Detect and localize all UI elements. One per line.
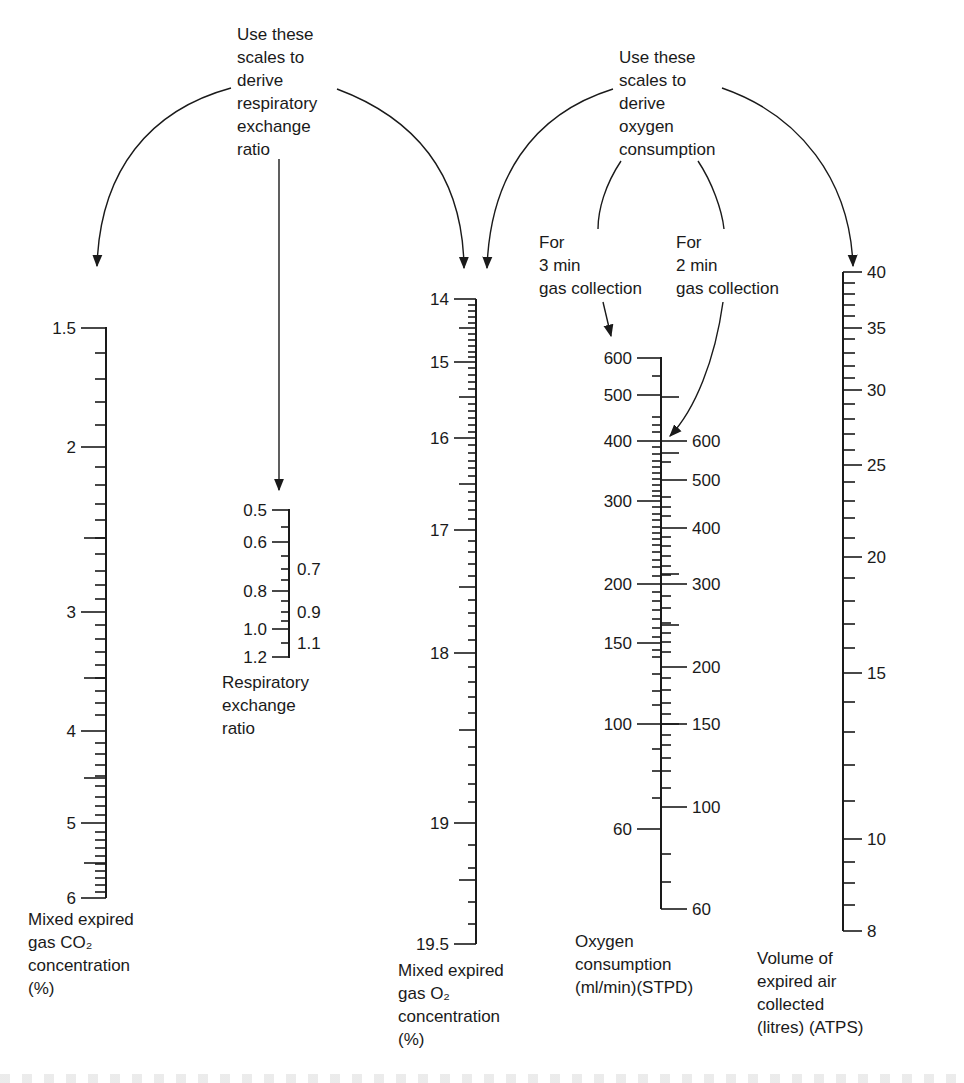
- title-line: collected: [757, 995, 824, 1014]
- tick-label: 40: [867, 263, 886, 282]
- rer-note-line: Use these: [237, 25, 314, 44]
- title-line: Respiratory: [222, 673, 309, 692]
- vo2-scale: 6005004003002001501006060050040030020015…: [604, 349, 721, 919]
- tick-label: 15: [430, 353, 449, 372]
- rer-scale-title: Respiratory exchange ratio: [222, 673, 309, 738]
- title-line: gas O₂: [398, 984, 450, 1003]
- tick-label: 8: [867, 922, 876, 941]
- tick-label: 10: [867, 830, 886, 849]
- arrow-to-co2-scale: [97, 88, 231, 266]
- tick-label: 500: [604, 386, 632, 405]
- arrow-2min-to-vo2: [670, 302, 723, 436]
- o2-scale: 14151617181919.5: [416, 290, 476, 954]
- tick-label: 2: [67, 438, 76, 457]
- tick-label: 400: [692, 519, 720, 538]
- three-min-line: 3 min: [539, 256, 581, 275]
- arrow-to-volume-scale: [722, 88, 853, 266]
- tick-label: 16: [430, 429, 449, 448]
- tick-label: 0.6: [243, 533, 267, 552]
- tick-label: 18: [430, 644, 449, 663]
- title-line: Oxygen: [575, 932, 634, 951]
- tick-label: 15: [867, 664, 886, 683]
- o2-note-line: consumption: [619, 140, 715, 159]
- volume-scale-title: Volume of expired air collected (litres)…: [757, 949, 863, 1037]
- rer-note-line: derive: [237, 71, 283, 90]
- tick-label: 1.1: [297, 634, 321, 653]
- volume-scale: 403530252015108: [843, 263, 886, 941]
- rer-note-line: exchange: [237, 117, 311, 136]
- tick-label: 100: [692, 798, 720, 817]
- rer-note-line: scales to: [237, 48, 304, 67]
- title-line: Volume of: [757, 949, 833, 968]
- tick-label: 30: [867, 381, 886, 400]
- title-line: (%): [28, 979, 54, 998]
- tick-label: 19.5: [416, 935, 449, 954]
- title-line: (%): [398, 1030, 424, 1049]
- title-line: (litres) (ATPS): [757, 1018, 863, 1037]
- arrow-3min-to-vo2: [603, 302, 611, 336]
- tick-label: 14: [430, 290, 449, 309]
- vo2-scale-title: Oxygen consumption (ml/min)(STPD): [575, 932, 693, 997]
- tick-label: 150: [604, 634, 632, 653]
- o2-note-line: scales to: [619, 71, 686, 90]
- tick-label: 150: [692, 715, 720, 734]
- rer-note-line: respiratory: [237, 94, 318, 113]
- title-line: consumption: [575, 955, 671, 974]
- tick-label: 35: [867, 319, 886, 338]
- rer-note-line: ratio: [237, 140, 270, 159]
- title-line: Mixed expired: [28, 910, 134, 929]
- o2-note-line: oxygen: [619, 117, 674, 136]
- tick-label: 600: [692, 432, 720, 451]
- rer-note: Use these scales to derive respiratory e…: [237, 25, 318, 159]
- tick-label: 0.9: [297, 603, 321, 622]
- title-line: gas CO₂: [28, 933, 92, 952]
- tick-label: 300: [604, 492, 632, 511]
- o2-note: Use these scales to derive oxygen consum…: [619, 48, 715, 159]
- two-min-label: For 2 min gas collection: [676, 233, 779, 298]
- tick-label: 6: [67, 889, 76, 908]
- tick-label: 200: [604, 575, 632, 594]
- co2-scale-title: Mixed expired gas CO₂ concentration (%): [28, 910, 134, 998]
- title-line: ratio: [222, 719, 255, 738]
- title-line: (ml/min)(STPD): [575, 978, 693, 997]
- title-line: exchange: [222, 696, 296, 715]
- tick-label: 0.5: [243, 501, 267, 520]
- tick-label: 5: [67, 814, 76, 833]
- two-min-line: For: [676, 233, 702, 252]
- tick-label: 60: [692, 900, 711, 919]
- arrow-to-o2-scale-from-rer: [337, 89, 464, 268]
- tick-label: 17: [430, 521, 449, 540]
- tick-label: 19: [430, 814, 449, 833]
- tick-label: 0.7: [297, 560, 321, 579]
- title-line: concentration: [28, 956, 130, 975]
- nomogram: Use these scales to derive respiratory e…: [0, 0, 964, 1083]
- tick-label: 400: [604, 432, 632, 451]
- tick-label: 200: [692, 658, 720, 677]
- branch-to-2min: [698, 161, 724, 229]
- two-min-line: gas collection: [676, 279, 779, 298]
- three-min-line: For: [539, 233, 565, 252]
- tick-label: 300: [692, 575, 720, 594]
- tick-label: 20: [867, 548, 886, 567]
- tick-label: 500: [692, 471, 720, 490]
- tick-label: 1.5: [52, 319, 76, 338]
- three-min-line: gas collection: [539, 279, 642, 298]
- title-line: Mixed expired: [398, 961, 504, 980]
- tick-label: 3: [67, 603, 76, 622]
- branch-to-3min: [598, 161, 621, 229]
- tick-label: 0.8: [243, 582, 267, 601]
- two-min-line: 2 min: [676, 256, 718, 275]
- title-line: concentration: [398, 1007, 500, 1026]
- tick-label: 4: [67, 722, 76, 741]
- co2-scale: 1.523456: [52, 319, 106, 908]
- tick-label: 1.0: [243, 620, 267, 639]
- o2-scale-title: Mixed expired gas O₂ concentration (%): [398, 961, 504, 1049]
- tick-label: 100: [604, 715, 632, 734]
- clipped-caption: [0, 1074, 964, 1083]
- o2-note-line: Use these: [619, 48, 696, 67]
- tick-label: 60: [613, 820, 632, 839]
- tick-label: 1.2: [243, 648, 267, 667]
- title-line: expired air: [757, 972, 837, 991]
- tick-label: 25: [867, 456, 886, 475]
- rer-scale: 0.50.60.81.01.20.70.91.1: [243, 501, 320, 667]
